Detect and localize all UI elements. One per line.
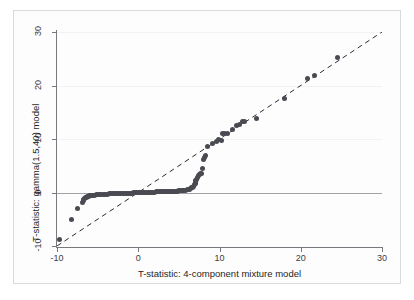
y-tick-mark [52, 193, 56, 194]
data-point [335, 55, 340, 60]
x-tick-mark [138, 248, 139, 252]
x-tick-label: 20 [286, 253, 316, 263]
data-point [75, 206, 80, 211]
data-point [69, 217, 74, 222]
data-point [205, 144, 210, 149]
data-point [282, 96, 287, 101]
data-point [219, 138, 224, 143]
x-tick-label: -10 [42, 253, 72, 263]
gridline [57, 32, 382, 33]
x-tick-mark [57, 248, 58, 252]
qq-scatter-figure: -100102030 -100102030 T-statistic: 4-com… [0, 0, 414, 300]
data-point [312, 73, 317, 78]
y-tick-mark [52, 32, 56, 33]
x-tick-label: 0 [123, 253, 153, 263]
y-tick-mark [52, 139, 56, 140]
gridline [57, 86, 382, 87]
data-point [254, 116, 259, 121]
x-tick-label: 10 [205, 253, 235, 263]
data-point [57, 237, 62, 242]
y-tick-mark [52, 246, 56, 247]
y-axis-title: T-statistic: gamma(1.5,40) model [30, 104, 41, 242]
data-point [230, 127, 235, 132]
x-tick-mark [301, 248, 302, 252]
x-tick-mark [220, 248, 221, 252]
data-point [203, 153, 208, 158]
x-tick-mark [382, 248, 383, 252]
plot-area [57, 32, 382, 246]
x-axis-title: T-statistic: 4-component mixture model [57, 268, 382, 279]
data-point [199, 171, 204, 176]
data-point [200, 166, 205, 171]
data-point [305, 76, 310, 81]
y-tick-mark [52, 86, 56, 87]
x-tick-label: 30 [367, 253, 397, 263]
data-point [242, 119, 247, 124]
y-tick-label: 20 [33, 73, 43, 97]
y-tick-label: 30 [33, 19, 43, 43]
data-point [225, 131, 230, 136]
